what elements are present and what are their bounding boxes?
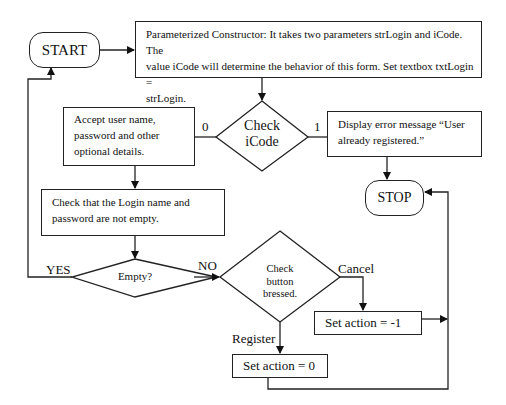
check-icode-line-2: iCode	[232, 134, 292, 150]
check-icode-label: Check iCode	[232, 118, 292, 150]
set-action-cancel-box: Set action = -1	[314, 311, 422, 335]
yes-label: YES	[46, 262, 71, 278]
error-line-2: already registered.”	[338, 133, 480, 149]
accept-line-3: optional details.	[74, 144, 194, 160]
error-message-box: Display error message “User already regi…	[327, 111, 482, 157]
set-action-cancel-label: Set action = -1	[325, 315, 401, 331]
set-action-register-box: Set action = 0	[232, 354, 328, 378]
check-login-line-1: Check that the Login name and	[52, 195, 224, 211]
accept-details-box: Accept user name, password and other opt…	[63, 107, 195, 166]
constructor-line-3: strLogin.	[146, 91, 481, 107]
stop-label: STOP	[378, 190, 412, 206]
button-check-line-3: bressed.	[254, 288, 306, 301]
branch-0-label: 0	[202, 119, 209, 135]
no-label: NO	[198, 258, 217, 274]
accept-line-1: Accept user name,	[74, 112, 194, 128]
check-icode-line-1: Check	[232, 118, 292, 134]
check-login-line-2: password are not empty.	[52, 211, 224, 227]
arrow-cancel-to-set-minus-one	[340, 277, 363, 310]
start-terminal: START	[29, 32, 100, 68]
cancel-label: Cancel	[338, 261, 374, 277]
branch-1-label: 1	[314, 119, 321, 135]
register-label: Register	[232, 331, 275, 347]
button-check-label: Check button bressed.	[254, 263, 306, 301]
set-action-register-label: Set action = 0	[243, 358, 315, 374]
error-line-1: Display error message “User	[338, 117, 480, 133]
empty-label: Empty?	[105, 270, 165, 283]
constructor-box: Parameterized Constructor: It takes two …	[135, 21, 482, 78]
start-label: START	[42, 42, 87, 59]
button-check-line-1: Check	[254, 263, 306, 276]
accept-line-2: password and other	[74, 128, 194, 144]
stop-terminal: STOP	[365, 180, 424, 216]
constructor-line-2: value iCode will determine the behavior …	[146, 59, 481, 91]
check-login-box: Check that the Login name and password a…	[41, 189, 225, 236]
connector-yes-to-start	[28, 68, 72, 277]
constructor-line-1: Parameterized Constructor: It takes two …	[146, 27, 481, 59]
button-check-line-2: button	[254, 276, 306, 289]
